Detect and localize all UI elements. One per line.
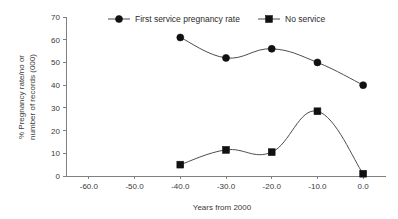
series-2: [177, 108, 367, 177]
line-chart: First service pregnancy rateNo service 0…: [0, 0, 398, 219]
y-axis-title: % Pregnancy rate/no or number of records…: [17, 54, 37, 140]
y-tick-label: 50: [51, 58, 60, 67]
x-tick-label: -50.0: [125, 182, 144, 191]
data-point-circle: [314, 59, 321, 66]
x-tick-label: -60.0: [80, 182, 99, 191]
series-1: [177, 34, 367, 89]
chart-container: First service pregnancy rateNo service 0…: [0, 0, 398, 219]
y-tick-label: 60: [51, 36, 60, 45]
y-tick-label: 30: [51, 104, 60, 113]
legend-marker-circle-icon: [116, 16, 123, 23]
data-point-circle: [268, 45, 275, 52]
x-tick-label: -30.0: [217, 182, 236, 191]
y-axis-title-line-2: number of records (000): [28, 54, 37, 140]
y-tick-label: 10: [51, 149, 60, 158]
y-tick-label: 0: [56, 172, 61, 181]
legend-item-2[interactable]: No service: [258, 14, 325, 24]
data-point-square: [177, 161, 184, 168]
chart-legend: First service pregnancy rateNo service: [108, 14, 325, 24]
legend-item-1[interactable]: First service pregnancy rate: [108, 14, 240, 24]
data-point-square: [268, 149, 275, 156]
x-axis-ticks: -60.0-50.0-40.0-30.0-20.0-10.00.0: [80, 176, 370, 191]
data-point-square: [223, 146, 230, 153]
legend-label: First service pregnancy rate: [135, 14, 240, 24]
y-tick-label: 40: [51, 81, 60, 90]
data-point-circle: [223, 54, 230, 61]
series-line: [180, 37, 363, 85]
legend-marker-square-icon: [266, 16, 273, 23]
data-point-circle: [177, 34, 184, 41]
x-tick-label: -20.0: [263, 182, 282, 191]
x-tick-label: -10.0: [308, 182, 327, 191]
data-point-circle: [360, 82, 367, 89]
series-line: [180, 111, 363, 174]
y-tick-label: 20: [51, 127, 60, 136]
data-point-square: [360, 170, 367, 177]
x-tick-label: 0.0: [358, 182, 370, 191]
data-point-square: [314, 108, 321, 115]
y-tick-label: 70: [51, 13, 60, 22]
chart-series: [177, 34, 367, 177]
y-axis-title-line-1: % Pregnancy rate/no or: [17, 55, 26, 139]
legend-label: No service: [285, 14, 325, 24]
x-axis-title: Years from 2000: [193, 203, 252, 212]
y-axis-ticks: 010203040506070: [51, 13, 66, 181]
x-tick-label: -40.0: [171, 182, 190, 191]
